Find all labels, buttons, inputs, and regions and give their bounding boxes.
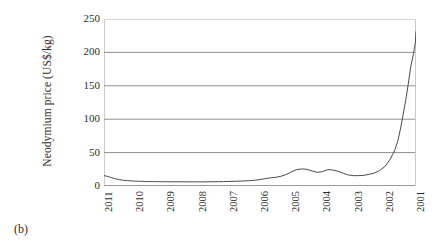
line-chart-svg: [104, 19, 416, 186]
x-tick-label: 2003: [354, 172, 365, 212]
x-tick-label: 2004: [322, 172, 333, 212]
figure-panel: Neodymium price (US$/kg) 250200150100500…: [0, 0, 440, 248]
x-tick-label: 2001: [416, 172, 427, 212]
figure-caption: (b): [14, 222, 28, 237]
x-tick-label: 2005: [291, 172, 302, 212]
y-tick-label: 250: [70, 13, 100, 24]
x-tick-label: 2006: [260, 172, 271, 212]
x-tick-label: 2008: [198, 172, 209, 212]
plot-area: [104, 19, 416, 186]
y-tick-label: 100: [70, 113, 100, 124]
gridlines: [104, 19, 416, 153]
y-tick-label: 50: [70, 147, 100, 158]
x-tick-label: 2009: [166, 172, 177, 212]
x-tick-label: 2010: [135, 172, 146, 212]
x-axis-tick-labels: 2011201020092008200720062005200420032002…: [104, 186, 416, 232]
y-tick-label: 150: [70, 80, 100, 91]
y-tick-label: 200: [70, 46, 100, 57]
y-tick-label: 0: [70, 180, 100, 191]
y-axis-tick-labels: 250200150100500: [68, 19, 100, 186]
x-tick-label: 2011: [104, 172, 115, 212]
price-line-series: [104, 32, 416, 182]
y-axis-title: Neodymium price (US$/kg): [41, 11, 53, 191]
x-tick-label: 2002: [385, 172, 396, 212]
x-tick-label: 2007: [229, 172, 240, 212]
